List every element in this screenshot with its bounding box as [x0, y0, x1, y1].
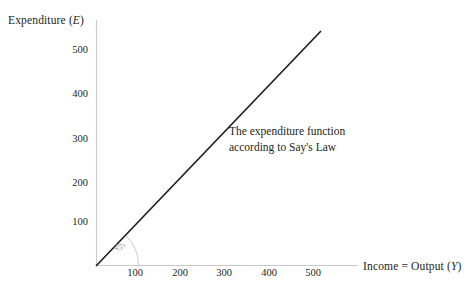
- x-tick-label-500: 500: [296, 267, 330, 278]
- y-tick-label-200: 200: [54, 177, 88, 188]
- y-axis-title-variable: E: [73, 14, 80, 26]
- y-tick-label-100: 100: [54, 216, 88, 227]
- y-tick-label-500: 500: [54, 44, 88, 55]
- x-axis-title-tail: ): [457, 260, 461, 272]
- y-tick-label-300: 300: [54, 133, 88, 144]
- x-axis-title-text: Income = Output (: [363, 260, 451, 272]
- annotation-line-1: The expenditure function: [229, 124, 345, 140]
- x-tick-label-300: 300: [207, 267, 241, 278]
- annotation-line-2: according to Say's Law: [229, 140, 345, 156]
- chart-figure: Expenditure (E) Income = Output (Y) 500 …: [0, 0, 474, 290]
- y-tick-label-400: 400: [54, 88, 88, 99]
- expenditure-function-annotation: The expenditure function according to Sa…: [229, 124, 345, 155]
- x-tick-label-200: 200: [163, 267, 197, 278]
- y-axis-title-text: Expenditure (: [8, 14, 73, 26]
- x-tick-label-400: 400: [252, 267, 286, 278]
- angle-arc: [126, 236, 138, 266]
- x-axis-title: Income = Output (Y): [363, 260, 461, 272]
- y-axis-title-tail: ): [80, 14, 84, 26]
- angle-label-45-degrees: 45°: [114, 242, 126, 252]
- y-axis-title: Expenditure (E): [8, 14, 84, 26]
- x-tick-label-100: 100: [118, 267, 152, 278]
